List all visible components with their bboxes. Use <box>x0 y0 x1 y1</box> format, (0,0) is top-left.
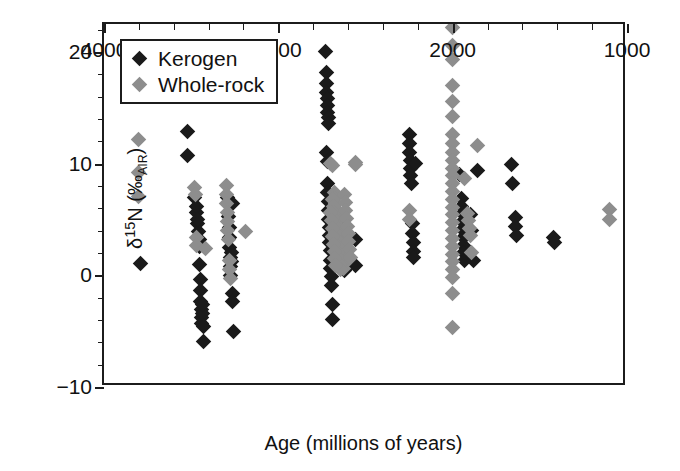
x-tick-minor <box>174 24 175 30</box>
x-tick-major <box>104 24 106 33</box>
y-tick-minor <box>98 141 104 142</box>
x-tick-minor <box>383 24 384 30</box>
data-point-kerogen <box>318 44 334 60</box>
plot-area: −1001020 4000300020001000 Kerogen Whole-… <box>102 22 625 385</box>
data-point-wholerock <box>602 212 618 228</box>
legend-label-kerogen: Kerogen <box>158 48 237 69</box>
y-tick-major <box>95 275 104 277</box>
y-tick-label: 10 <box>69 152 92 176</box>
y-tick-minor <box>98 186 104 187</box>
data-point-wholerock <box>445 285 461 301</box>
data-point-wholerock <box>445 320 461 336</box>
y-axis-title: δ15N (‰AIR) <box>122 48 151 348</box>
y-tick-label: −10 <box>56 375 92 399</box>
y-tick-minor <box>98 74 104 75</box>
data-point-wholerock <box>445 109 461 125</box>
scatter-chart-figure: −1001020 4000300020001000 Kerogen Whole-… <box>0 0 680 471</box>
data-point-kerogen <box>192 256 208 272</box>
data-point-kerogen <box>196 333 212 349</box>
data-point-wholerock <box>445 78 461 94</box>
x-tick-minor <box>313 24 314 30</box>
y-tick-minor <box>98 342 104 343</box>
x-tick-minor <box>139 24 140 30</box>
data-point-kerogen <box>325 312 341 328</box>
y-tick-minor <box>98 253 104 254</box>
x-tick-minor <box>348 24 349 30</box>
x-tick-minor <box>592 24 593 30</box>
legend-label-whole-rock: Whole-rock <box>158 74 264 95</box>
x-tick-minor <box>488 24 489 30</box>
data-point-kerogen <box>225 323 241 339</box>
data-point-kerogen <box>505 176 521 192</box>
y-tick-major <box>95 164 104 166</box>
y-tick-minor <box>98 119 104 120</box>
y-tick-minor <box>98 320 104 321</box>
data-point-kerogen <box>180 123 196 139</box>
x-tick-major <box>627 24 629 33</box>
y-tick-label: 0 <box>80 263 92 287</box>
data-point-wholerock <box>469 138 485 154</box>
y-tick-minor <box>98 298 104 299</box>
y-tick-minor <box>98 208 104 209</box>
x-tick-label: 2000 <box>429 38 476 62</box>
y-tick-major <box>95 387 104 389</box>
data-point-kerogen <box>180 148 196 164</box>
data-point-kerogen <box>325 297 341 313</box>
data-point-wholerock <box>445 93 461 109</box>
x-tick-major <box>278 24 280 33</box>
x-tick-major <box>453 24 455 33</box>
x-tick-minor <box>557 24 558 30</box>
x-tick-label: 1000 <box>604 38 651 62</box>
data-point-kerogen <box>469 163 485 179</box>
y-tick-minor <box>98 365 104 366</box>
y-tick-minor <box>98 231 104 232</box>
x-tick-minor <box>418 24 419 30</box>
x-axis-title: Age (millions of years) <box>102 432 625 455</box>
x-tick-minor <box>243 24 244 30</box>
x-tick-minor <box>209 24 210 30</box>
y-tick-minor <box>98 97 104 98</box>
data-point-wholerock <box>237 224 253 240</box>
data-point-kerogen <box>504 157 520 173</box>
x-tick-minor <box>522 24 523 30</box>
